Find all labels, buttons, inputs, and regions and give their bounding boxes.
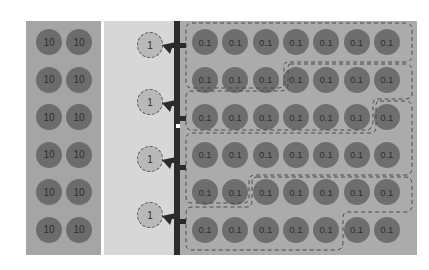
- dashed-group-outlines: [0, 0, 429, 270]
- group-outline-2: [186, 64, 412, 130]
- arrow-stub-1: [176, 43, 186, 48]
- arrow-stub-2: [176, 116, 186, 121]
- arrow-stub-4: [176, 219, 186, 224]
- arrow-4: [162, 213, 176, 225]
- group-outline-3: [186, 101, 412, 203]
- arrow-1: [162, 42, 176, 54]
- arrow-3: [162, 157, 176, 169]
- group-outline-1: [186, 23, 412, 88]
- arrow-2: [162, 100, 176, 112]
- arrow-stub-3: [176, 165, 186, 170]
- group-outline-4: [186, 177, 412, 250]
